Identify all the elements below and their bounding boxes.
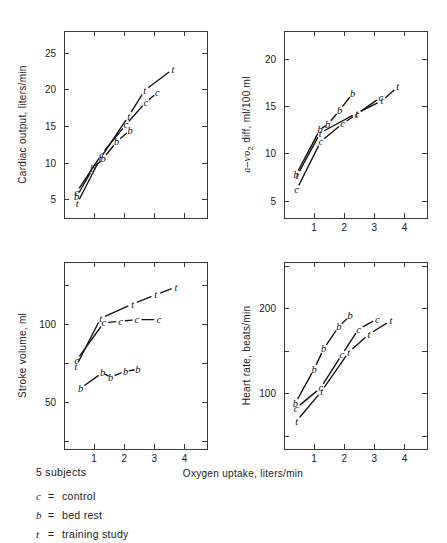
y-tick-label: 20	[265, 54, 277, 65]
legend-item: t=training study	[36, 528, 276, 540]
panel-bottom-left: 123450100cccccbbbbbtttttStroke volume, m…	[17, 262, 207, 464]
legend-symbol-t: t	[36, 528, 48, 540]
data-point-marker-t: t	[389, 315, 393, 326]
legend-label-c: control	[62, 490, 96, 502]
legend-item: b=bed rest	[36, 509, 276, 521]
data-point-marker-b: b	[78, 383, 83, 394]
data-point-marker-b: b	[128, 125, 133, 136]
y-tick-label: 15	[45, 121, 57, 132]
subjects-note: 5 subjects	[36, 466, 276, 478]
series-segment-t	[105, 306, 127, 316]
data-point-marker-b: b	[321, 343, 326, 354]
data-point-marker-t: t	[380, 95, 384, 106]
x-tick-label: 1	[91, 453, 97, 464]
x-tick-label: 1	[311, 453, 317, 464]
series-segment-t	[161, 289, 171, 293]
data-point-marker-t: t	[172, 64, 176, 75]
y-tick-label: 200	[259, 303, 276, 314]
series-segment-c	[125, 320, 132, 321]
legend-symbol-c: c	[36, 490, 48, 502]
data-point-marker-t: t	[295, 416, 299, 427]
series-segment-t	[325, 356, 346, 387]
legend-item: c=control	[36, 490, 276, 502]
data-point-marker-c: c	[356, 324, 361, 335]
y-axis-title-top-right: a–ѵo2 diff, ml/100 ml	[241, 76, 255, 172]
plot-frame	[64, 262, 207, 449]
data-point-marker-b: b	[337, 105, 342, 116]
series-segment-t	[300, 395, 318, 417]
y-tick-label: 10	[45, 158, 57, 169]
series-segment-t	[373, 323, 386, 331]
data-point-marker-t: t	[367, 329, 371, 340]
data-point-marker-t: t	[154, 289, 158, 300]
series-segment-t	[149, 72, 169, 87]
data-point-marker-b: b	[100, 367, 105, 378]
y-axis-title-bottom-left: Stroke volume, ml	[17, 313, 28, 398]
data-point-marker-t: t	[131, 299, 135, 310]
data-point-marker-c: c	[375, 314, 380, 325]
y-tick-label: 100	[39, 319, 56, 330]
series-segment-b	[85, 376, 98, 386]
plot-frame	[284, 262, 427, 449]
figure-container: 510152025cccccbbbbbtttttCardiac output, …	[0, 0, 447, 543]
series-segment-b	[342, 319, 347, 323]
series-segment-t	[80, 163, 98, 198]
series-segment-b	[115, 373, 121, 375]
x-tick-label: 4	[402, 453, 408, 464]
series-segment-b	[327, 331, 336, 345]
y-tick-label: 20	[45, 84, 57, 95]
four-panel-scatter-figure: 510152025cccccbbbbbtttttCardiac output, …	[0, 0, 447, 543]
legend-symbol-b: b	[36, 509, 48, 521]
x-tick-label: 3	[152, 453, 158, 464]
series-segment-c	[324, 359, 339, 383]
data-point-marker-b: b	[350, 88, 355, 99]
series-segment-t	[137, 297, 151, 302]
y-tick-label: 100	[259, 388, 276, 399]
data-point-marker-c: c	[135, 314, 140, 325]
legend-label-b: bed rest	[62, 509, 102, 521]
series-segment-t	[386, 90, 394, 97]
series-segment-c	[109, 322, 116, 323]
y-tick-label: 5	[50, 194, 56, 205]
y-tick-label: 5	[270, 196, 276, 207]
data-point-marker-b: b	[336, 321, 341, 332]
series-segment-b	[343, 97, 350, 106]
data-point-marker-t: t	[320, 386, 324, 397]
data-point-marker-c: c	[118, 316, 123, 327]
series-segment-b	[129, 370, 134, 371]
data-point-marker-b: b	[135, 364, 140, 375]
x-tick-label: 4	[402, 222, 408, 233]
plot-frame	[64, 31, 207, 218]
series-segment-t	[353, 338, 365, 349]
series-segment-b	[298, 374, 312, 399]
x-tick-label: 4	[182, 453, 188, 464]
x-tick-label: 3	[372, 222, 378, 233]
y-tick-label: 10	[265, 148, 277, 159]
series-segment-c	[149, 95, 154, 99]
y-tick-label: 50	[45, 397, 57, 408]
series-segment-c	[300, 391, 317, 405]
series-segment-b	[316, 353, 321, 364]
panel-top-right: 12345101520cccccbbbbbttttta–ѵo2 diff, ml…	[241, 31, 427, 233]
y-tick-label: 25	[45, 48, 57, 59]
data-point-marker-b: b	[123, 366, 128, 377]
data-point-marker-t: t	[296, 170, 300, 181]
panels-layer: 510152025cccccbbbbbtttttCardiac output, …	[17, 31, 427, 464]
data-point-marker-b: b	[293, 398, 298, 409]
legend-equals: =	[48, 490, 62, 502]
series-segment-c	[129, 106, 142, 121]
data-point-marker-b: b	[311, 364, 316, 375]
x-tick-label: 1	[311, 222, 317, 233]
series-segment-c	[363, 321, 373, 326]
data-point-marker-b: b	[108, 372, 113, 383]
data-point-marker-c: c	[156, 314, 161, 325]
series-segment-b	[331, 114, 336, 120]
x-tick-label: 2	[121, 453, 127, 464]
data-point-marker-t: t	[347, 347, 351, 358]
data-point-marker-t: t	[175, 282, 179, 293]
x-tick-label: 2	[341, 453, 347, 464]
plot-frame	[284, 31, 427, 218]
data-point-marker-t: t	[396, 81, 400, 92]
data-point-marker-b: b	[348, 310, 353, 321]
series-segment-b	[121, 133, 127, 138]
